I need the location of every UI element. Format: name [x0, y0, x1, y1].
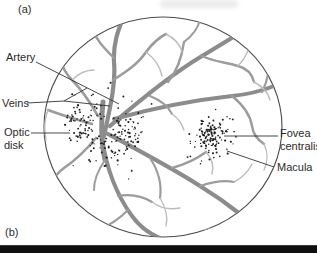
panel-divider-bar: [0, 245, 317, 253]
macula-label: Macula: [277, 161, 312, 174]
panel-b-label: (b): [5, 226, 18, 239]
veins-label: Veins: [2, 97, 29, 110]
panel-a-label: (a): [18, 3, 31, 16]
artery-label: Artery: [6, 51, 35, 64]
fovea-centralis-label: Fovea centralis: [280, 127, 317, 153]
fundus-illustration: [0, 0, 317, 254]
figure-panel: (a) Artery Veins Optic disk Fovea centra…: [0, 0, 317, 254]
optic-disk-label: Optic disk: [4, 126, 38, 152]
